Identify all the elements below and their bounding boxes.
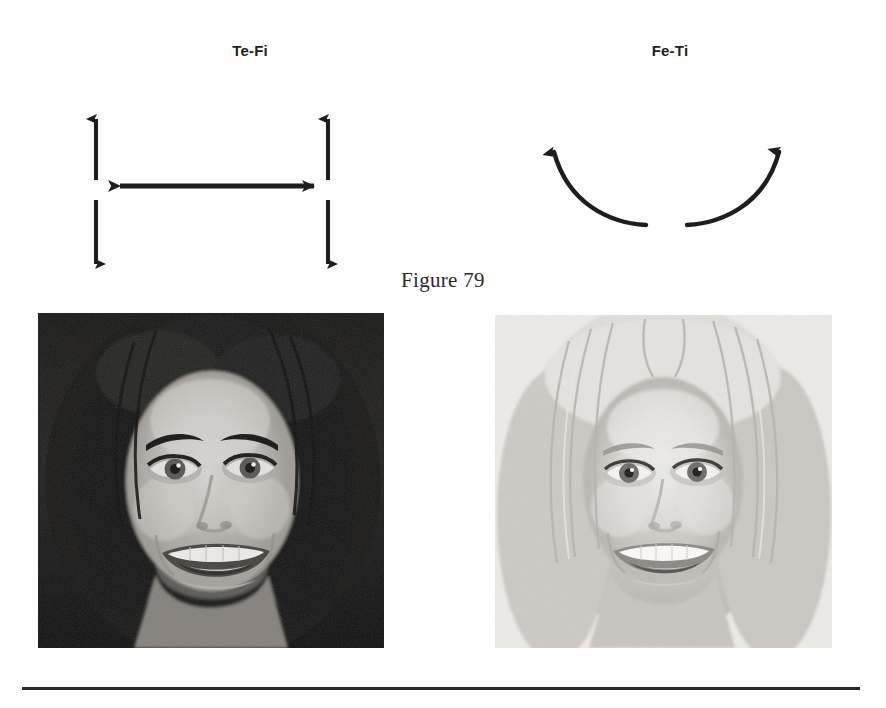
photo-portrait-dark-hair: [38, 313, 384, 648]
right-arc-path: [687, 152, 779, 225]
photo-portrait-light-hair: [495, 315, 832, 648]
straight-double-arrows-svg: [60, 100, 380, 285]
diagram-fe-ti: [520, 110, 820, 245]
bottom-horizontal-rule: [22, 687, 860, 690]
left-curved-arrow: [554, 152, 646, 225]
column-label-fe-ti: Fe-Ti: [570, 42, 770, 59]
right-curved-arrow: [687, 152, 779, 225]
diagram-te-fi: [60, 100, 380, 285]
left-arc-path: [554, 152, 646, 225]
curved-upward-arcs-svg: [520, 110, 820, 245]
portrait-light-hair-illustration: [495, 315, 832, 648]
column-label-te-fi: Te-Fi: [150, 42, 350, 59]
figure-page: Te-Fi Fe-Ti: [0, 0, 886, 708]
portrait-dark-hair-illustration: [38, 313, 384, 648]
figure-caption: Figure 79: [0, 268, 886, 293]
